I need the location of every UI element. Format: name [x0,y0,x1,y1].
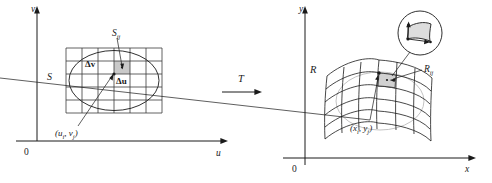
subrectangle-center-dot [121,66,123,68]
region-S-label: S [47,71,52,82]
subrectangle-label: Sij [112,28,121,40]
left-panel-uv-plane: v u 0 [16,4,228,158]
uv-point-callout: (ui, vj) [55,72,116,139]
y-axis-label: y [298,4,304,14]
inset-base-point [406,37,409,40]
left-origin-label: 0 [24,147,29,157]
u-axis-label: u [216,148,221,158]
y-axis [302,6,308,165]
inset-quad [407,23,431,41]
right-panel-xy-plane: y x 0 [0,4,476,174]
transformation-arrow-group: T [222,73,262,95]
region-R-surface [325,59,432,141]
uv-point-label: (ui, vj) [55,128,78,140]
region-R-label: R [309,64,317,75]
inset-vertex-right [429,41,432,44]
x-axis-label: x [464,164,470,174]
uv-grid [66,48,162,113]
u-axis [16,138,228,144]
delta-u-label: Δu [116,76,127,86]
delta-v-label: Δv [85,59,96,69]
subregion-center-dot [386,79,388,81]
right-origin-label: 0 [292,164,297,174]
magnified-subregion-inset [392,11,442,76]
subregion-label: Rij [423,64,434,76]
inset-vertex-top [407,24,410,27]
xy-point-label: (xi, yj) [350,123,372,135]
transformation-diagram: v u 0 [0,0,492,183]
v-axis [34,6,40,141]
x-axis [283,155,476,161]
transformation-label: T [238,73,245,84]
figure-canvas: v u 0 [0,0,492,183]
xy-point-callout: (xi, yj) [0,71,381,134]
xy-sample-point [377,71,380,74]
